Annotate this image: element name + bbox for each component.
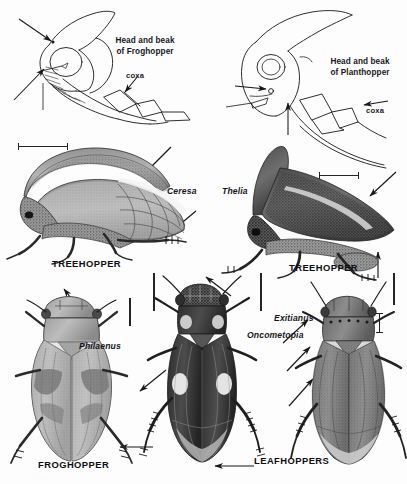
scale-bar-oncometopia-right — [258, 273, 265, 311]
arrow-philaenus-wing — [140, 370, 166, 391]
stylet-leader-right — [226, 103, 252, 107]
scale-bar-exitianus-left — [376, 313, 383, 333]
label-coxa-left: coxa — [126, 71, 144, 80]
genus-label-exitianus: Exitianus — [274, 313, 314, 323]
figure-treehopper-thelia — [222, 146, 394, 281]
arrow-to-coxa-right — [364, 101, 388, 105]
caption-treehopper-left: TREEHOPPER — [52, 258, 121, 269]
scale-bar-exitianus-right — [391, 273, 398, 305]
froghopper-head-arrows — [14, 19, 138, 100]
planthopper-head-diagram — [241, 11, 386, 168]
figure-treehopper-ceresa — [7, 148, 187, 264]
arrow-to-ocellus — [19, 19, 51, 41]
arrow-to-stylet — [14, 69, 44, 100]
arrow-thelia-pronotum — [370, 172, 396, 196]
genus-label-ceresa: Ceresa — [167, 186, 197, 196]
figure-leafhopper-exitianus — [291, 282, 406, 464]
scale-bar-ceresa — [18, 143, 68, 150]
arrow-exitianus-wing — [289, 379, 313, 406]
genus-label-oncometopia: Oncometopia — [247, 330, 304, 340]
froghopper-head-diagram — [40, 11, 190, 124]
scale-bar-oncometopia-left — [151, 273, 158, 311]
stylet-leader — [41, 66, 62, 71]
callout-head-beak-planthopper: Head and beak of Planthopper — [319, 57, 401, 78]
callout-head-beak-froghopper: Head and beak of Froghopper — [107, 36, 183, 57]
arrow-to-ocellus-right — [235, 86, 266, 89]
genus-label-philaenus: Philaenus — [79, 341, 121, 351]
figure-froghopper-philaenus — [11, 297, 132, 463]
genus-label-thelia: Thelia — [222, 186, 248, 196]
caption-froghopper: FROGHOPPER — [38, 459, 109, 470]
scale-bar-philaenus — [127, 298, 134, 326]
illustration-plate: Head and beak of Froghopper coxa Head an… — [0, 0, 407, 484]
caption-leafhoppers: LEAFHOPPERS — [254, 455, 329, 466]
caption-treehopper-right: TREEHOPPER — [289, 262, 358, 273]
label-coxa-right: coxa — [366, 106, 384, 115]
scale-bar-thelia — [319, 172, 359, 179]
